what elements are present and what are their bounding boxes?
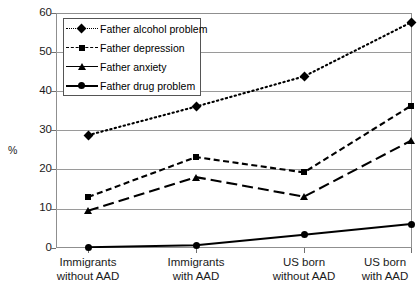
legend-label: Father drug problem <box>100 80 195 92</box>
legend-key-circle-icon <box>64 77 100 95</box>
x-tick-mark <box>196 248 197 253</box>
legend-item: Father alcohol problem <box>64 19 200 38</box>
legend-item: Father anxiety <box>64 57 200 76</box>
data-point-circle <box>193 242 200 249</box>
series-line-2 <box>88 141 411 211</box>
series-line-1 <box>88 106 411 197</box>
x-tick-label-line1: Immigrants <box>141 256 251 270</box>
legend-item: Father depression <box>64 38 200 57</box>
data-point-triangle <box>192 174 200 181</box>
data-point-square <box>301 169 307 175</box>
y-tick-mark <box>51 248 56 249</box>
data-point-square <box>408 103 414 109</box>
x-tick-label: Immigrants with AAD <box>141 256 251 283</box>
y-tick-label: 60 <box>18 7 52 18</box>
y-axis-title: % <box>8 144 17 156</box>
triangle-marker-icon <box>78 63 86 70</box>
data-point-circle <box>408 221 415 228</box>
data-point-triangle <box>407 137 415 144</box>
figure-caption <box>0 281 418 295</box>
square-marker-icon <box>79 45 85 51</box>
x-tick-label-line1: US born <box>330 256 418 270</box>
y-tick-label: 40 <box>18 85 52 96</box>
x-tick-label-line1: Immigrants <box>33 256 143 270</box>
data-point-square <box>193 154 199 160</box>
circle-marker-icon <box>78 82 85 89</box>
legend-key-diamond-icon <box>64 20 100 38</box>
legend-key-square-icon <box>64 39 100 57</box>
x-tick-label: Immigrants without AAD <box>33 256 143 283</box>
legend-label: Father anxiety <box>100 61 167 73</box>
series-line-3 <box>88 224 411 247</box>
diamond-marker-icon <box>77 23 87 33</box>
y-tick-label: 10 <box>18 202 52 213</box>
legend-label: Father alcohol problem <box>100 23 207 35</box>
chart-figure: 60 50 40 30 20 10 0 % Immigr <box>0 0 418 295</box>
y-tick-label: 20 <box>18 163 52 174</box>
y-tick-label: 50 <box>18 46 52 57</box>
legend-item: Father drug problem <box>64 76 200 95</box>
legend-key-triangle-icon <box>64 58 100 76</box>
legend-label: Father depression <box>100 42 185 54</box>
data-point-circle <box>85 244 92 251</box>
x-tick-mark <box>304 248 305 253</box>
y-tick-label: 30 <box>18 124 52 135</box>
data-point-triangle <box>300 193 308 200</box>
chart-legend: Father alcohol problem Father depression… <box>63 18 201 96</box>
data-point-circle <box>301 231 308 238</box>
x-tick-label: US born with AAD <box>330 256 418 283</box>
x-tick-mark <box>411 248 412 253</box>
data-point-triangle <box>84 207 92 214</box>
data-point-square <box>85 194 91 200</box>
y-tick-label: 0 <box>18 242 52 253</box>
